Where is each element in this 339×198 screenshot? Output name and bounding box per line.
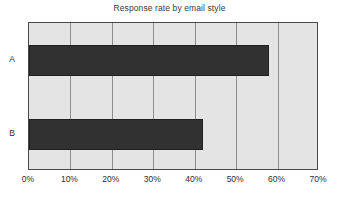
x-tick-label-20: 20% — [91, 174, 131, 184]
chart-figure: Response rate by email style AB 0%10%20%… — [0, 0, 339, 198]
y-tick-label-b: B — [0, 128, 24, 138]
x-tick-label-0: 0% — [8, 174, 48, 184]
bars-layer — [29, 23, 317, 169]
bar-b[interactable] — [29, 119, 203, 150]
plot-area — [28, 22, 318, 170]
y-tick-label-a: A — [0, 54, 24, 64]
x-tick-label-30: 30% — [132, 174, 172, 184]
x-tick-label-70: 70% — [298, 174, 338, 184]
bar-a[interactable] — [29, 45, 269, 76]
x-tick-label-10: 10% — [49, 174, 89, 184]
x-tick-label-50: 50% — [215, 174, 255, 184]
chart-title: Response rate by email style — [0, 3, 339, 13]
x-tick-label-60: 60% — [257, 174, 297, 184]
x-tick-label-40: 40% — [174, 174, 214, 184]
